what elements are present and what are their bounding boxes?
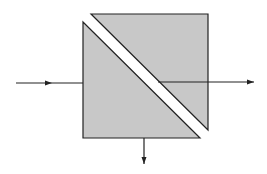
- arrowhead-icon: [45, 81, 52, 86]
- beam-splitter-diagram: [0, 0, 267, 174]
- arrowhead-icon: [142, 157, 147, 164]
- input-beam: [16, 81, 83, 86]
- prisms-group: [83, 14, 208, 138]
- reflected-beam: [142, 138, 147, 164]
- arrowhead-icon: [247, 80, 254, 85]
